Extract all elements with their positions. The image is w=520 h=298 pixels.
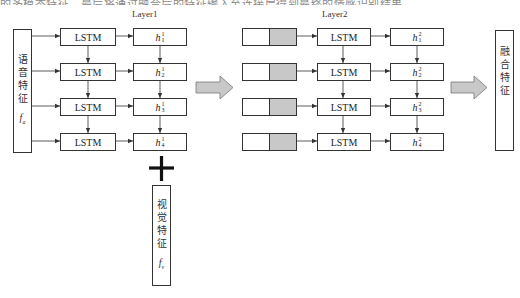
visual-part [270, 134, 296, 150]
layer1-lstm-3: LSTM [60, 98, 116, 116]
speech-feature-box: 语 音 特 征 fa [13, 29, 32, 153]
visual-part [270, 64, 296, 80]
layer2-hidden-3: h23 [390, 98, 444, 116]
plus-icon [149, 156, 174, 181]
char: 视 [157, 198, 167, 211]
speech-feature-symbol: fa [20, 111, 26, 129]
layer2-concat-input-3 [242, 98, 297, 116]
char: 征 [157, 237, 167, 250]
layer2-lstm-2: LSTM [317, 63, 371, 81]
layer2-lstm-1: LSTM [317, 28, 371, 46]
char: 觉 [157, 211, 167, 224]
layer2-hidden-2: h22 [390, 63, 444, 81]
visual-part [270, 29, 296, 45]
layer1-lstm-4: LSTM [60, 133, 116, 151]
char: 融 [500, 45, 510, 58]
layer2-concat-input-4 [242, 133, 297, 151]
char: 特 [500, 71, 510, 84]
char: 特 [157, 224, 167, 237]
char: 征 [18, 92, 28, 105]
visual-feature-box: 视 觉 特 征 fv [152, 185, 171, 286]
layer2-hidden-1: h21 [390, 28, 444, 46]
char: 征 [500, 84, 510, 97]
layer2-concat-input-2 [242, 63, 297, 81]
char: 特 [18, 79, 28, 92]
speech-part [243, 29, 270, 45]
char: 合 [500, 58, 510, 71]
speech-part [243, 99, 270, 115]
block-arrow-2 [451, 76, 487, 99]
speech-part [243, 134, 270, 150]
layer2-lstm-3: LSTM [317, 98, 371, 116]
visual-part [270, 99, 296, 115]
layer2-hidden-4: h24 [390, 133, 444, 151]
layer1-hidden-2: h12 [133, 63, 187, 81]
layer1-hidden-3: h13 [133, 98, 187, 116]
layer1-lstm-1: LSTM [60, 28, 116, 46]
layer1-hidden-1: h11 [133, 28, 187, 46]
layer2-lstm-4: LSTM [317, 133, 371, 151]
fusion-feature-box: 融 合 特 征 [495, 30, 514, 151]
char: 语 [18, 53, 28, 66]
layer1-hidden-4: h14 [133, 133, 187, 151]
layer1-lstm-2: LSTM [60, 63, 116, 81]
layer2-concat-input-1 [242, 28, 297, 46]
block-arrow-1 [196, 76, 233, 99]
char: 音 [18, 66, 28, 79]
speech-part [243, 64, 270, 80]
visual-feature-symbol: fv [159, 256, 164, 274]
